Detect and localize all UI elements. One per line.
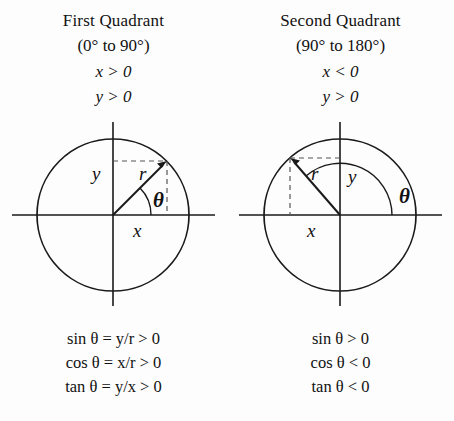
second-quadrant-angle-range: (90° to 180°) — [227, 36, 454, 56]
radius-label: r — [311, 163, 319, 184]
x-label: x — [132, 220, 142, 241]
first-quadrant-y-condition: y > 0 — [0, 87, 227, 107]
first-quadrant-sin-formula: sin θ = y/r > 0 — [0, 329, 227, 349]
x-label: x — [306, 220, 316, 241]
second-quadrant-panel: Second Quadrant (90° to 180°) x < 0 y > … — [227, 0, 454, 421]
first-quadrant-panel: First Quadrant (0° to 90°) x > 0 y > 0 r — [0, 0, 227, 421]
second-quadrant-title: Second Quadrant — [227, 11, 454, 31]
first-quadrant-cos-formula: cos θ = x/r > 0 — [0, 353, 227, 373]
y-label: y — [346, 166, 357, 187]
second-quadrant-y-condition: y > 0 — [227, 87, 454, 107]
first-quadrant-angle-range: (0° to 90°) — [0, 36, 227, 56]
theta-label: θ — [399, 184, 410, 208]
second-quadrant-x-condition: x < 0 — [227, 62, 454, 82]
second-quadrant-tan-formula: tan θ < 0 — [227, 377, 454, 397]
first-quadrant-circle-figure: r y x θ — [0, 118, 227, 308]
second-quadrant-circle-figure: r y x θ — [227, 118, 454, 308]
first-quadrant-x-condition: x > 0 — [0, 62, 227, 82]
second-quadrant-cos-formula: cos θ < 0 — [227, 353, 454, 373]
trigonometry-quadrant-diagram: First Quadrant (0° to 90°) x > 0 y > 0 r — [0, 0, 454, 421]
second-quadrant-sin-formula: sin θ > 0 — [227, 329, 454, 349]
theta-label: θ — [153, 188, 164, 212]
first-quadrant-title: First Quadrant — [0, 11, 227, 31]
radius-label: r — [139, 163, 147, 184]
first-quadrant-tan-formula: tan θ = y/x > 0 — [0, 377, 227, 397]
radius-arrowhead-icon — [157, 161, 167, 168]
radius-arrowhead-icon — [290, 158, 300, 165]
angle-arc — [140, 188, 151, 215]
y-label: y — [90, 163, 101, 184]
